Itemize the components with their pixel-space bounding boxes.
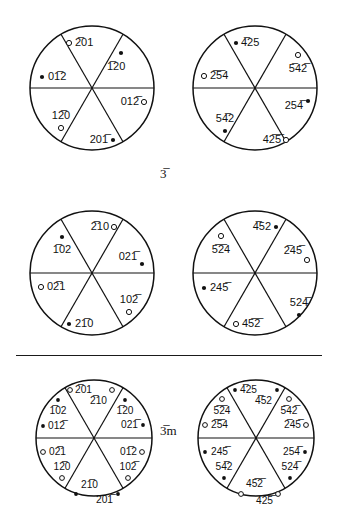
circle-r3c1: 2̅01 2̅10 1̅02 012̅ 1̅20 021̅ 02̅1 12̅0 … <box>30 366 158 511</box>
pole-marker-filled <box>233 388 237 392</box>
pole-marker-filled <box>274 225 278 229</box>
pole-marker-filled <box>140 262 144 266</box>
pole-marker-filled <box>223 129 227 133</box>
pole-marker-open <box>141 99 146 104</box>
pole-label: 1̅02 <box>53 243 71 255</box>
pole-marker-open <box>276 492 281 497</box>
pole-marker-filled <box>40 75 44 79</box>
pole-marker-filled <box>119 51 123 55</box>
circle-r1c2: 4̅25 5̅42̅ 2̅5̅4 254̅ 54̅2 42̅5̅ <box>185 12 325 164</box>
pole-label: 21̅0 <box>81 479 98 490</box>
pole-marker-filled <box>56 398 60 402</box>
group-label-row3: 3̅m <box>160 423 177 439</box>
circle-r1c1: 2̅01 1̅20 01̅2 012̅ 12̅0 201̅ <box>22 12 162 164</box>
pole-label: 12̅0 <box>54 461 71 472</box>
pole-marker-open <box>233 321 238 326</box>
pole-label: 2̅5̅4 <box>210 69 228 81</box>
pole-marker-filled <box>303 450 307 454</box>
pole-label: 4̅25 <box>241 36 259 48</box>
pole-label: 2̅10 <box>90 395 107 406</box>
pole-marker-filled <box>141 423 145 427</box>
pole-marker-open <box>304 257 309 262</box>
pole-label: 12̅0 <box>52 109 70 121</box>
pole-marker-open <box>304 423 309 428</box>
group-label-row1: 3̅ <box>160 166 167 182</box>
pole-marker-filled <box>203 450 207 454</box>
pole-label: 4̅52 <box>253 220 271 232</box>
pole-label: 524̅ <box>282 461 302 472</box>
pole-marker-open <box>287 397 292 402</box>
pole-marker-filled <box>123 398 127 402</box>
pole-label: 02̅1 <box>47 280 65 292</box>
pole-label: 254̅ <box>283 446 303 457</box>
pole-marker-open <box>68 388 73 393</box>
pole-label: 45̅2̅ <box>246 478 266 489</box>
pole-label: 102̅ <box>120 461 140 472</box>
pole-marker-filled <box>202 286 206 290</box>
circle-r2c1: 2̅10 1̅02 021̅ 02̅1 102̅ 21̅0 <box>22 197 162 349</box>
pole-marker-open <box>58 125 63 130</box>
pole-label: 42̅5̅ <box>256 495 276 506</box>
pole-marker-open <box>218 233 223 238</box>
stereographic-projection-figure: 2̅01 1̅20 01̅2 012̅ 12̅0 201̅ 4̅25 5̅42̅ <box>0 0 340 529</box>
pole-label: 1̅20 <box>107 60 125 72</box>
pole-label: 4̅25 <box>240 384 257 395</box>
pole-marker-filled <box>234 41 238 45</box>
pole-label: 4̅52 <box>255 395 272 406</box>
pole-marker-open <box>239 492 244 497</box>
pole-label: 245̅ <box>211 446 231 457</box>
pole-label: 2̅01 <box>75 36 93 48</box>
pole-marker-open <box>295 52 300 57</box>
pole-label: 01̅2 <box>48 70 66 82</box>
pole-label: 5̅2̅4 <box>214 405 231 416</box>
pole-marker-open <box>41 450 46 455</box>
pole-marker-open <box>60 476 65 481</box>
pole-marker-filled <box>74 492 78 496</box>
pole-marker-open <box>126 309 131 314</box>
pole-marker-open <box>111 224 116 229</box>
pole-label: 2̅45̅ <box>284 419 304 430</box>
pole-marker-open <box>140 450 145 455</box>
pole-label: 5̅42̅ <box>281 405 301 416</box>
circle-r2c2: 4̅52 5̅2̅4 2̅45̅ 245̅ 524̅ 45̅2̅ <box>185 197 325 349</box>
pole-marker-open <box>110 388 115 393</box>
pole-marker-filled <box>111 138 115 142</box>
pole-marker-open <box>126 476 131 481</box>
pole-marker-filled <box>67 322 71 326</box>
pole-marker-open <box>201 73 206 78</box>
pole-marker-filled <box>297 313 301 317</box>
pole-label: 201̅ <box>96 494 116 505</box>
pole-marker-filled <box>288 476 292 480</box>
pole-label: 54̅2 <box>216 461 233 472</box>
pole-marker-filled <box>60 235 64 239</box>
pole-label: 21̅0 <box>75 317 93 329</box>
pole-label: 54̅2 <box>216 112 234 124</box>
section-separator <box>16 355 322 356</box>
pole-marker-open <box>220 397 225 402</box>
pole-marker-open <box>203 423 208 428</box>
pole-marker-filled <box>222 476 226 480</box>
pole-label: 2̅01 <box>75 384 92 395</box>
pole-label: 1̅20 <box>117 405 134 416</box>
pole-marker-filled <box>41 424 45 428</box>
pole-marker-open <box>283 137 288 142</box>
pole-label: 01̅2 <box>120 446 137 457</box>
pole-marker-open <box>38 284 43 289</box>
pole-label: 1̅02 <box>50 405 67 416</box>
pole-label: 2̅5̅4 <box>211 419 228 430</box>
circle-r3c2: 4̅25 4̅52 5̅2̅4 2̅5̅4 5̅42̅ 2̅45̅ 245̅ 5… <box>192 366 320 511</box>
pole-label: 02̅1 <box>49 446 66 457</box>
pole-label: 012̅ <box>48 420 68 431</box>
pole-marker-open <box>66 40 71 45</box>
pole-label: 021̅ <box>121 419 141 430</box>
pole-marker-filled <box>306 99 310 103</box>
pole-label: 2̅10 <box>91 220 109 232</box>
pole-marker-filled <box>275 388 279 392</box>
pole-marker-filled <box>116 492 120 496</box>
pole-label: 5̅2̅4 <box>212 243 230 255</box>
